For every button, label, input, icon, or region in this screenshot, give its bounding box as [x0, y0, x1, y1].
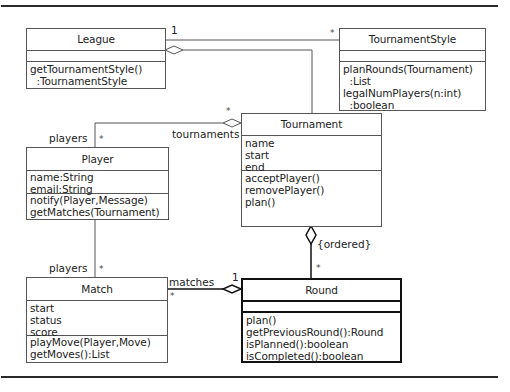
- class-operations: playMove(Player,Move) getMoves():List: [27, 336, 167, 360]
- operation: isPlanned():boolean: [246, 338, 397, 350]
- operation: plan(): [245, 196, 378, 208]
- class-attributes: [27, 51, 165, 62]
- multiplicity-players-top: *: [99, 134, 104, 144]
- operation: :TournamentStyle: [30, 75, 162, 87]
- role-players-top: players: [49, 132, 87, 144]
- class-player[interactable]: Player name:String email:String notify(P…: [26, 147, 169, 220]
- attribute: status: [30, 314, 164, 326]
- multiplicity-matches-many: *: [170, 291, 175, 301]
- class-attributes: [340, 51, 485, 62]
- attribute: start: [245, 149, 378, 161]
- role-players-bottom: players: [49, 262, 87, 274]
- class-name: Player: [27, 148, 168, 171]
- class-operations: getTournamentStyle() :TournamentStyle: [27, 62, 165, 87]
- role-matches: matches: [169, 276, 214, 288]
- multiplicity-tournaments-many: *: [226, 106, 231, 116]
- class-attributes: start status score: [27, 301, 167, 336]
- operation: legalNumPlayers(n:int): [343, 87, 482, 99]
- class-operations: acceptPlayer() removePlayer() plan(): [242, 171, 381, 208]
- multiplicity-players-bottom: *: [99, 264, 104, 274]
- class-attributes: [243, 302, 400, 313]
- constraint-ordered: {ordered}: [317, 238, 371, 250]
- class-round[interactable]: Round plan() getPreviousRound():Round is…: [241, 278, 402, 363]
- class-name: TournamentStyle: [340, 29, 485, 51]
- operation: isCompleted():boolean: [246, 350, 397, 362]
- attribute: start: [30, 302, 164, 314]
- class-name: Tournament: [242, 114, 381, 136]
- class-operations: planRounds(Tournament) :List legalNumPla…: [340, 62, 485, 111]
- attribute: name: [245, 137, 378, 149]
- operation: playMove(Player,Move): [30, 336, 164, 348]
- operation: plan(): [246, 314, 397, 326]
- operation: planRounds(Tournament): [343, 63, 482, 75]
- operation: :boolean: [343, 99, 482, 111]
- operation: getMoves():List: [30, 348, 164, 360]
- class-league[interactable]: League getTournamentStyle() :TournamentS…: [26, 28, 166, 89]
- multiplicity-round-many: *: [316, 263, 321, 273]
- class-operations: notify(Player,Message) getMatches(Tourna…: [27, 194, 168, 218]
- operation: acceptPlayer(): [245, 172, 378, 184]
- operation: getMatches(Tournament): [30, 206, 165, 218]
- operation: notify(Player,Message): [30, 194, 165, 206]
- multiplicity-tournamentstyle-many: *: [330, 28, 335, 38]
- multiplicity-league-one: 1: [171, 24, 178, 36]
- class-name: Round: [243, 280, 400, 302]
- operation: removePlayer(): [245, 184, 378, 196]
- class-tournament[interactable]: Tournament name start end acceptPlayer()…: [241, 113, 382, 227]
- class-tournament-style[interactable]: TournamentStyle planRounds(Tournament) :…: [339, 28, 486, 111]
- operation: getTournamentStyle(): [30, 63, 162, 75]
- operation: :List: [343, 75, 482, 87]
- class-name: Match: [27, 278, 167, 301]
- role-tournaments: tournaments: [172, 128, 239, 140]
- attribute: name:String: [30, 171, 165, 183]
- operation: getPreviousRound():Round: [246, 326, 397, 338]
- class-attributes: name:String email:String: [27, 171, 168, 194]
- class-name: League: [27, 29, 165, 51]
- multiplicity-round-one: 1: [232, 271, 239, 283]
- class-attributes: name start end: [242, 136, 381, 171]
- class-match[interactable]: Match start status score playMove(Player…: [26, 277, 168, 363]
- class-operations: plan() getPreviousRound():Round isPlanne…: [243, 313, 400, 362]
